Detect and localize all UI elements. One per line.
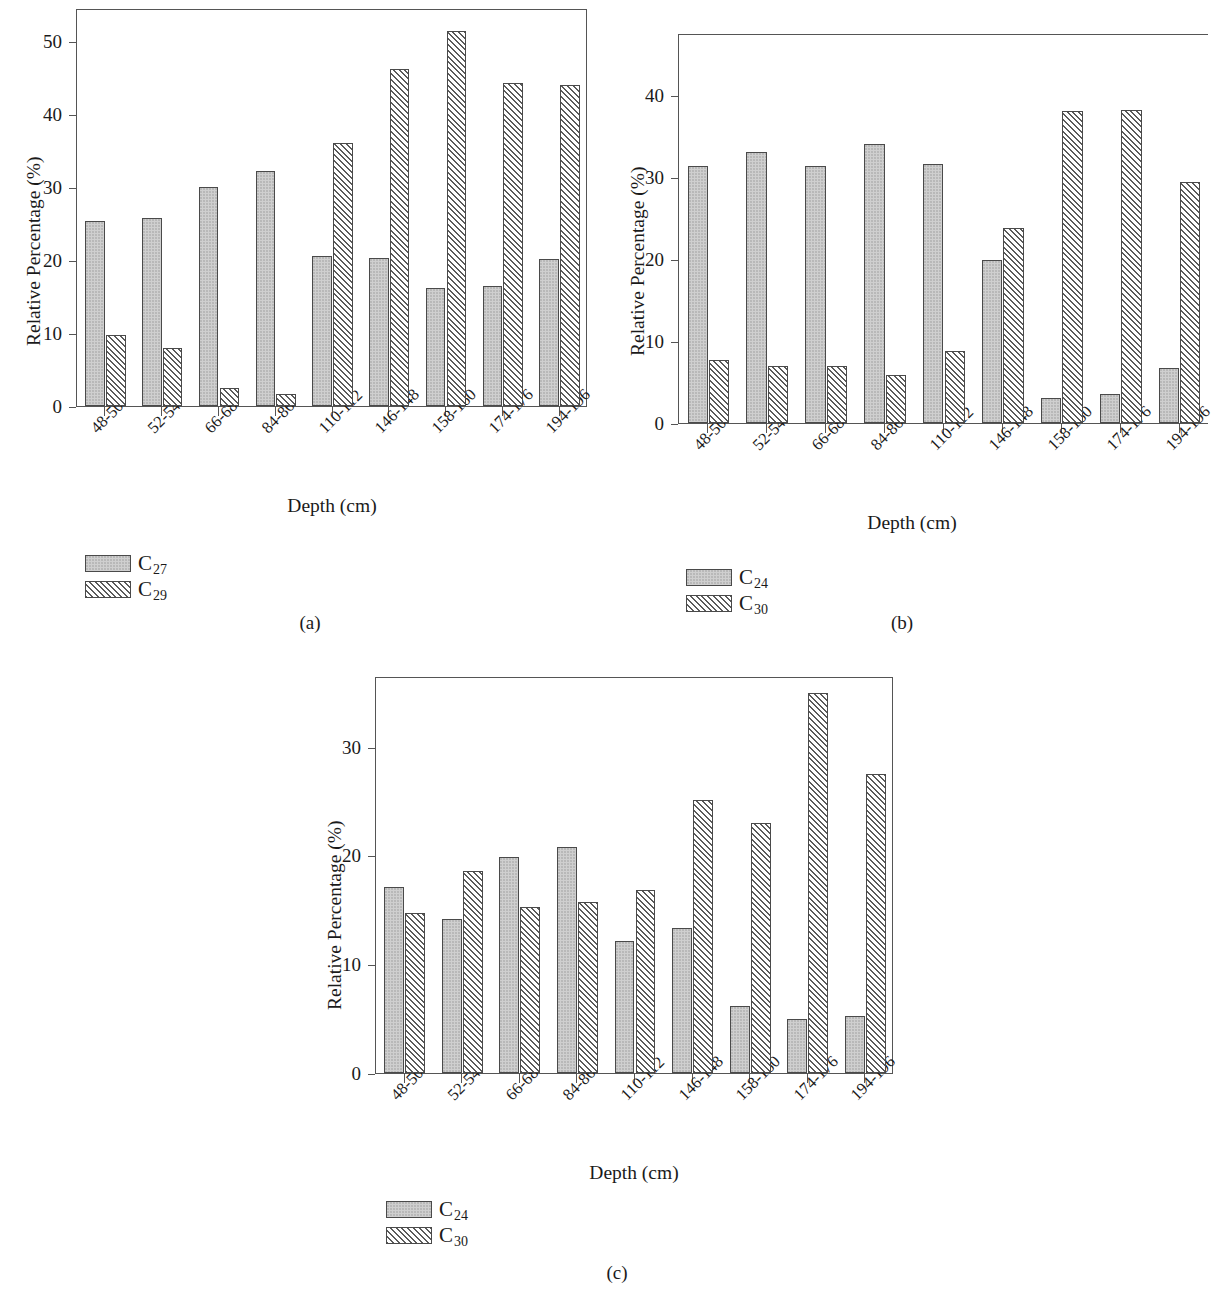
y-tick-label-c-0: 0: [313, 1064, 361, 1083]
bar-c29-66-68: [220, 388, 240, 406]
plot-area-c: [375, 677, 893, 1074]
y-tick-a-0: [69, 407, 76, 408]
bar-c30-84-86: [578, 902, 598, 1073]
legend-label-main: C: [739, 565, 753, 589]
bar-c30-174-176: [1121, 110, 1141, 423]
legend-item-C24: C24: [386, 1196, 467, 1222]
legend-label-main: C: [439, 1197, 453, 1221]
bar-c30-84-86: [886, 375, 906, 423]
bar-c30-66-68: [520, 907, 540, 1073]
bar-c24-194-196: [845, 1016, 865, 1073]
bar-c30-66-68: [827, 366, 847, 423]
y-axis-title-b: Relative Percentage (%): [628, 167, 648, 357]
bar-c24-174-176: [1100, 394, 1120, 423]
y-tick-a-40: [69, 115, 76, 116]
plot-area-b: [678, 34, 1208, 424]
legend-item-C24: C24: [686, 564, 767, 590]
bar-c24-52-54: [746, 152, 766, 423]
bar-c30-194-196: [866, 774, 886, 1073]
bar-c24-158-160: [730, 1006, 750, 1073]
legend-swatch-solid-icon: [85, 555, 131, 572]
bar-c27-52-54: [142, 218, 162, 406]
bar-c30-48-50: [405, 913, 425, 1073]
bar-c27-174-176: [483, 286, 503, 406]
plot-area-a: [76, 9, 587, 407]
y-tick-label-a-40: 40: [14, 105, 62, 124]
bar-c30-158-160: [751, 823, 771, 1073]
y-tick-label-a-0: 0: [14, 397, 62, 416]
y-tick-b-40: [671, 96, 678, 97]
bar-c27-110-112: [312, 256, 332, 406]
y-tick-label-b-0: 0: [616, 414, 664, 433]
bars-container-b: [679, 35, 1208, 423]
legend-swatch-hatch-icon: [386, 1227, 432, 1244]
bar-c30-174-176: [808, 693, 828, 1073]
legend-item-C30: C30: [686, 590, 767, 616]
y-tick-b-10: [671, 342, 678, 343]
legend-item-C29: C29: [85, 576, 166, 602]
bar-c27-194-196: [539, 259, 559, 406]
panel-caption-b: (b): [862, 612, 942, 634]
bar-c27-84-86: [256, 171, 276, 406]
bar-c30-146-148: [1003, 228, 1023, 423]
bar-c24-146-148: [982, 260, 1002, 423]
legend-swatch-solid-icon: [386, 1201, 432, 1218]
bars-container-c: [376, 678, 892, 1073]
bar-c30-110-112: [945, 351, 965, 423]
bar-c30-52-54: [463, 871, 483, 1073]
y-tick-a-50: [69, 42, 76, 43]
legend-label-C29: C29: [138, 579, 166, 600]
legend-c: C24C30: [386, 1196, 467, 1248]
y-tick-b-0: [671, 424, 678, 425]
bars-container-a: [77, 10, 586, 406]
bar-c29-194-196: [560, 85, 580, 406]
legend-label-main: C: [739, 591, 753, 615]
bar-c29-158-160: [447, 31, 467, 406]
legend-label-subscript: 30: [754, 602, 768, 617]
y-tick-label-c-30: 30: [313, 738, 361, 757]
legend-label-subscript: 24: [454, 1208, 468, 1223]
legend-label-main: C: [439, 1223, 453, 1247]
legend-swatch-hatch-icon: [85, 581, 131, 598]
bar-c29-110-112: [333, 143, 353, 406]
legend-label-subscript: 30: [454, 1234, 468, 1249]
bar-c30-110-112: [636, 890, 656, 1073]
bar-c30-194-196: [1180, 182, 1200, 423]
legend-label-subscript: 27: [153, 562, 167, 577]
bar-c24-48-50: [688, 166, 708, 423]
y-tick-label-a-50: 50: [14, 32, 62, 51]
legend-swatch-solid-icon: [686, 569, 732, 586]
legend-label-C30: C30: [739, 593, 767, 614]
bar-c24-146-148: [672, 928, 692, 1073]
y-tick-b-20: [671, 260, 678, 261]
bar-c29-84-86: [276, 394, 296, 406]
bar-c29-48-50: [106, 335, 126, 406]
y-tick-a-10: [69, 334, 76, 335]
legend-label-main: C: [138, 551, 152, 575]
bar-c27-146-148: [369, 258, 389, 406]
legend-label-C27: C27: [138, 553, 166, 574]
legend-label-main: C: [138, 577, 152, 601]
bar-c24-110-112: [923, 164, 943, 423]
bar-c30-158-160: [1062, 111, 1082, 423]
bar-c30-146-148: [693, 800, 713, 1073]
bar-c24-194-196: [1159, 368, 1179, 423]
legend-label-C24: C24: [739, 567, 767, 588]
legend-item-C30: C30: [386, 1222, 467, 1248]
bar-c27-48-50: [85, 221, 105, 406]
bar-c29-174-176: [503, 83, 523, 407]
panel-caption-a: (a): [270, 612, 350, 634]
y-tick-c-0: [368, 1074, 375, 1075]
bar-c24-66-68: [499, 857, 519, 1073]
legend-swatch-hatch-icon: [686, 595, 732, 612]
x-axis-title-a: Depth (cm): [222, 495, 442, 517]
x-axis-title-b: Depth (cm): [802, 512, 1022, 534]
y-tick-b-30: [671, 178, 678, 179]
bar-c24-110-112: [615, 941, 635, 1073]
bar-c29-52-54: [163, 348, 183, 406]
bar-c24-84-86: [557, 847, 577, 1073]
bar-c24-48-50: [384, 887, 404, 1073]
bar-c24-158-160: [1041, 398, 1061, 423]
bar-c30-52-54: [768, 366, 788, 423]
legend-label-C30: C30: [439, 1225, 467, 1246]
